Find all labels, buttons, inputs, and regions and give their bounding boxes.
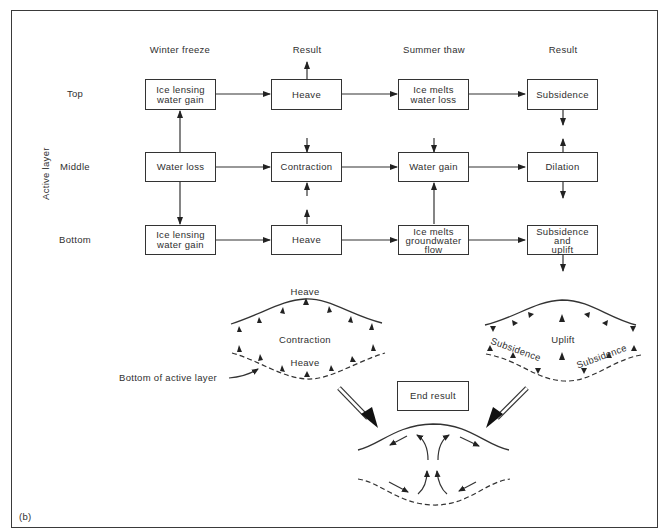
box-text: uplift	[552, 245, 574, 254]
box-bottom-ice-melts-groundwater: Ice melts groundwater flow	[398, 225, 469, 255]
left-sketch-bottom-heave-label: Heave	[291, 357, 320, 368]
column-header-summer-thaw: Summer thaw	[403, 44, 465, 55]
box-text: Ice melts	[413, 85, 454, 95]
box-top-subsidence: Subsidence	[527, 79, 598, 110]
callout-bottom-of-active-layer: Bottom of active layer	[119, 372, 217, 383]
column-header-result: Result	[549, 44, 578, 55]
box-bottom-ice-lensing: Ice lensing water gain	[145, 225, 216, 255]
box-top-ice-lensing: Ice lensing water gain	[145, 79, 216, 110]
box-end-result: End result	[397, 381, 469, 411]
box-text: Ice lensing	[156, 85, 205, 95]
row-label-top: Top	[67, 88, 83, 99]
panel-label: (b)	[19, 511, 32, 522]
box-text: End result	[410, 391, 456, 401]
box-text: Water loss	[157, 162, 205, 172]
box-text: Heave	[292, 90, 321, 100]
box-text: water gain	[157, 95, 204, 105]
box-middle-water-gain: Water gain	[398, 152, 469, 182]
box-text: Contraction	[281, 162, 333, 172]
box-middle-dilation: Dilation	[527, 152, 598, 182]
column-header-result: Result	[293, 44, 322, 55]
box-bottom-heave: Heave	[271, 225, 342, 255]
row-label-bottom: Bottom	[59, 234, 91, 245]
box-middle-contraction: Contraction	[271, 152, 342, 182]
box-text: Subsidence	[536, 90, 589, 100]
box-text: water gain	[157, 240, 204, 250]
column-header-winter-freeze: Winter freeze	[150, 44, 210, 55]
box-text: water loss	[411, 95, 457, 105]
row-label-middle: Middle	[60, 161, 90, 172]
box-text: Dilation	[545, 162, 579, 172]
axis-label-active-layer: Active layer	[40, 147, 51, 200]
box-text: Water gain	[409, 162, 458, 172]
hollow-arrow-left	[339, 388, 378, 428]
box-text: Heave	[292, 235, 321, 245]
left-sketch-top-heave-label: Heave	[291, 286, 320, 297]
box-top-heave: Heave	[271, 79, 342, 110]
box-top-ice-melts: Ice melts water loss	[398, 79, 469, 110]
left-sketch-contraction-label: Contraction	[279, 334, 331, 345]
box-middle-water-loss: Water loss	[145, 152, 216, 182]
right-sketch-uplift-label: Uplift	[551, 334, 574, 345]
box-bottom-subsidence-uplift: Subsidence and uplift	[527, 225, 598, 255]
hollow-arrow-right	[486, 388, 527, 428]
box-text: flow	[424, 245, 442, 254]
